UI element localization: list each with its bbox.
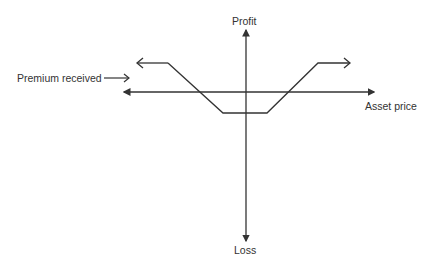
premium-arrow-icon [104, 74, 129, 82]
loss-label: Loss [234, 245, 256, 256]
payoff-diagram [0, 0, 426, 261]
premium-received-label: Premium received [17, 73, 102, 84]
payoff-line [137, 58, 350, 113]
profit-label: Profit [232, 16, 257, 27]
asset-price-label: Asset price [365, 101, 417, 112]
